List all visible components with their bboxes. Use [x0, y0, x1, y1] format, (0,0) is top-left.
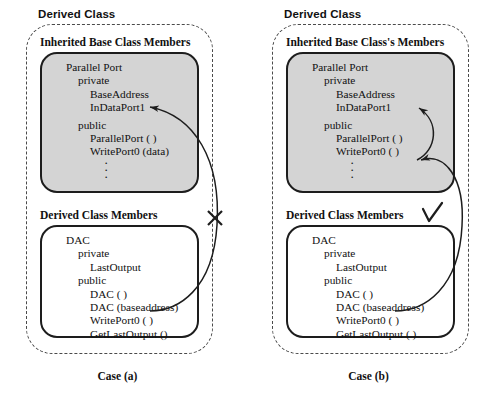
base-public-label-b: public: [288, 119, 403, 132]
derived-class-box-b: DAC private LastOutput public DAC ( ) DA…: [286, 225, 455, 338]
inherited-base-class-members-title-a: Inherited Base Class Members: [40, 36, 190, 48]
derived-public-member-3-b: GetLastOutput ( ): [288, 328, 424, 341]
derived-private-label-b: private: [288, 247, 424, 260]
derived-class-name-a: DAC: [42, 234, 178, 247]
derived-class-code-a: DAC private LastOutput public DAC ( ) DA…: [42, 227, 178, 341]
derived-public-member-0-b: DAC ( ): [288, 288, 424, 301]
derived-class-title-a: Derived Class: [38, 8, 115, 20]
base-class-name-a: Parallel Port: [42, 61, 169, 74]
base-private-member-0-a: BaseAddress: [42, 88, 169, 101]
base-public-label-a: public: [42, 119, 169, 132]
case-label-b: Case (b): [268, 370, 469, 382]
base-ellipsis-dot-2-a: ·: [42, 173, 169, 180]
derived-public-member-2-a: WritePort0 ( ): [42, 314, 178, 327]
case-a-panel: Derived Class Inherited Base Class Membe…: [22, 0, 247, 408]
derived-private-member-0-b: LastOutput: [288, 261, 424, 274]
base-ellipsis-dot-2-b: ·: [288, 173, 403, 180]
derived-public-member-1-a: DAC (baseaddress): [42, 301, 178, 314]
base-class-box-a: Parallel Port private BaseAddress InData…: [40, 52, 199, 193]
derived-public-member-0-a: DAC ( ): [42, 288, 178, 301]
inherited-base-class-members-title-b: Inherited Base Class's Members: [286, 36, 444, 48]
base-private-member-0-b: BaseAddress: [288, 88, 403, 101]
derived-public-label-a: public: [42, 274, 178, 287]
base-private-label-b: private: [288, 74, 403, 87]
base-private-member-1-b: InDataPort1: [288, 101, 403, 114]
derived-private-member-0-a: LastOutput: [42, 261, 178, 274]
case-b-panel: Derived Class Inherited Base Class's Mem…: [268, 0, 491, 408]
derived-class-box-a: DAC private LastOutput public DAC ( ) DA…: [40, 225, 199, 338]
base-private-member-1-a: InDataPort1: [42, 101, 169, 114]
derived-public-member-1-b: DAC (baseaddress): [288, 301, 424, 314]
derived-public-member-3-a: GetLastOutput (): [42, 328, 178, 341]
derived-class-members-title-a: Derived Class Members: [40, 209, 158, 221]
base-ellipsis-dot-1-b: ·: [288, 166, 403, 173]
derived-private-label-a: private: [42, 247, 178, 260]
case-label-a: Case (a): [22, 370, 213, 382]
base-class-box-b: Parallel Port private BaseAddress InData…: [286, 52, 455, 193]
base-public-member-0-b: ParallelPort ( ): [288, 132, 403, 145]
base-class-name-b: Parallel Port: [288, 61, 403, 74]
base-public-member-0-a: ParallelPort ( ): [42, 132, 169, 145]
derived-class-title-b: Derived Class: [284, 8, 361, 20]
derived-class-name-b: DAC: [288, 234, 424, 247]
base-public-member-1-b: WritePort0 ( ): [288, 145, 403, 158]
derived-public-label-b: public: [288, 274, 424, 287]
base-ellipsis-dot-0-b: ·: [288, 159, 403, 166]
derived-class-members-title-b: Derived Class Members: [286, 209, 404, 221]
base-private-label-a: private: [42, 74, 169, 87]
derived-class-code-b: DAC private LastOutput public DAC ( ) DA…: [288, 227, 424, 341]
base-class-code-a: Parallel Port private BaseAddress InData…: [42, 54, 169, 180]
base-class-code-b: Parallel Port private BaseAddress InData…: [288, 54, 403, 180]
derived-public-member-2-b: WritePort0 ( ): [288, 314, 424, 327]
